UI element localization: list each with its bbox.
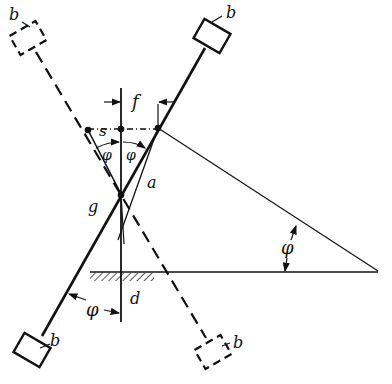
solid-arm-line	[42, 48, 205, 336]
label-a: a	[147, 173, 157, 192]
b-leader-top-right	[212, 16, 222, 22]
point-top-center	[118, 126, 125, 133]
point-pivot-right	[155, 125, 162, 132]
weight-box-bottom-left	[14, 333, 51, 367]
label-phi-bottom: φ	[86, 299, 99, 320]
label-f: f	[130, 91, 142, 112]
label-phi-right: φ	[126, 147, 136, 163]
phi-bottom-arrow-left	[69, 294, 86, 300]
weight-box-top-right	[194, 19, 231, 53]
label-s: s	[99, 122, 107, 140]
phi-bottom-arrow-right	[104, 310, 119, 313]
diagram: b b b b f s a g d φ φ φ φ	[0, 0, 392, 384]
label-b-top-left: b	[9, 5, 19, 24]
weight-box-bottom-right	[195, 335, 232, 369]
label-b-bottom-right: b	[233, 333, 243, 352]
point-s	[85, 127, 92, 134]
label-g: g	[88, 197, 98, 216]
label-phi-triangle: φ	[281, 237, 294, 258]
triangle-hypotenuse	[158, 128, 378, 271]
point-g	[118, 192, 125, 199]
ground-hatch	[90, 273, 154, 281]
label-phi-left: φ	[102, 147, 112, 163]
label-b-bottom-left: b	[50, 331, 60, 350]
diagram-canvas: b b b b f s a g d φ φ φ φ	[0, 0, 392, 384]
label-b-top-right: b	[226, 3, 236, 22]
label-d: d	[130, 289, 140, 308]
phi-tri-arrow-down	[285, 258, 287, 271]
